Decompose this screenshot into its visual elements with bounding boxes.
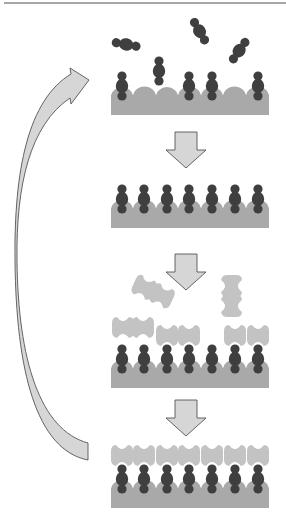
bound-molecule: [161, 464, 173, 493]
free-molecule: [187, 15, 212, 46]
arrow-step1-to-step2: [166, 132, 206, 168]
bound-molecule: [252, 71, 264, 100]
bound-molecule: [252, 344, 264, 373]
capped-receptor: [247, 445, 269, 466]
bound-molecule: [161, 184, 173, 213]
capped-receptor: [201, 445, 223, 466]
bound-molecule: [206, 344, 218, 373]
bound-molecule: [206, 184, 218, 213]
capped-receptor: [156, 445, 178, 466]
bound-molecule: [206, 464, 218, 493]
bound-molecule: [183, 344, 195, 373]
bound-molecule: [183, 464, 195, 493]
bound-molecule: [229, 184, 241, 213]
bound-molecule: [138, 184, 150, 213]
free-molecule: [226, 35, 253, 66]
capped-receptor: [111, 445, 133, 466]
step-3-panel: [111, 317, 269, 388]
capped-receptor: [247, 325, 269, 346]
arrow-step2-to-step3: [166, 254, 206, 290]
capped-receptor: [133, 445, 155, 466]
free-receptor-pair: [130, 273, 177, 310]
bound-molecule: [116, 71, 128, 100]
capped-receptor: [156, 325, 178, 346]
capped-receptor: [224, 325, 246, 346]
diagram-canvas: [0, 0, 286, 515]
free-molecule: [111, 36, 142, 53]
arrow-cycle-return: [15, 68, 89, 460]
bound-molecule: [183, 71, 195, 100]
free-receptor-pair: [221, 275, 242, 317]
capped-receptor: [178, 325, 200, 346]
arrow-step3-to-step4: [166, 400, 206, 436]
bound-molecule: [252, 464, 264, 493]
step-2-panel: [111, 184, 269, 228]
capped-receptor: [224, 445, 246, 466]
bound-molecule: [206, 71, 218, 100]
approaching-molecule: [153, 56, 165, 85]
bound-molecule: [116, 344, 128, 373]
bound-molecule: [116, 184, 128, 213]
bound-molecule: [116, 464, 128, 493]
step-4-panel: [111, 445, 269, 508]
bound-molecule: [252, 184, 264, 213]
hovering-receptor-pair: [112, 317, 154, 338]
bound-molecule: [161, 344, 173, 373]
bound-molecule: [138, 344, 150, 373]
bound-molecule: [229, 344, 241, 373]
step-1-panel: [111, 71, 269, 115]
capped-receptor: [178, 445, 200, 466]
bound-molecule: [229, 464, 241, 493]
bound-molecule: [183, 184, 195, 213]
bound-molecule: [138, 464, 150, 493]
